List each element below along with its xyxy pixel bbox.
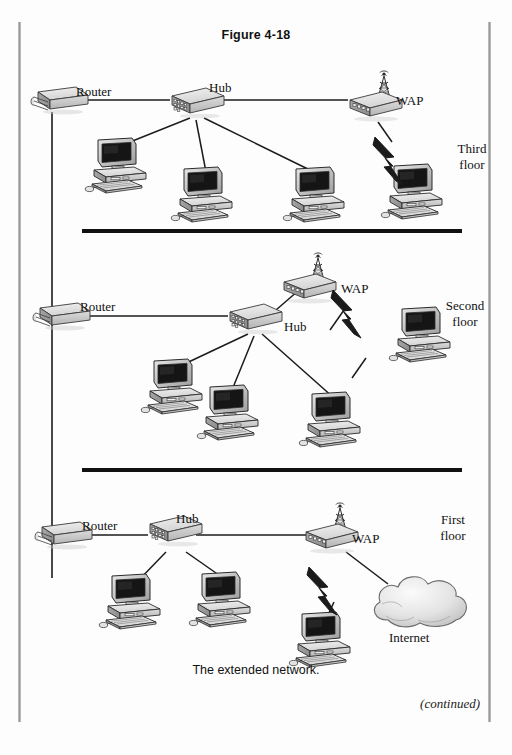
page-gutter-left <box>18 22 21 722</box>
label-router-second-floor: Router <box>80 299 115 315</box>
desktop-computer-icon-second-floor-1[interactable] <box>141 359 202 414</box>
floor-label-third: Third floor <box>437 141 507 174</box>
floor-label-second: Second floor <box>430 298 500 331</box>
floor-label-second-line2: floor <box>452 314 477 329</box>
desktop-computer-icon-first-floor-wireless[interactable] <box>289 612 350 667</box>
lightning-bolt-icon-first-floor <box>307 567 337 615</box>
hub-icon-second-floor[interactable] <box>230 304 282 334</box>
figure-title: Figure 4-18 <box>0 28 512 42</box>
lightning-bolt-icon-second-floor <box>331 290 361 338</box>
label-wap-first-floor: WAP <box>352 531 379 547</box>
internet-cloud-icon[interactable] <box>374 577 466 627</box>
floor-label-second-line1: Second <box>446 298 484 313</box>
network-diagram-art <box>0 0 512 755</box>
floor-separator-third-second <box>82 229 462 233</box>
label-router-third-floor: Router <box>76 84 111 100</box>
label-wap-second-floor: WAP <box>341 281 368 297</box>
desktop-computer-icon-first-floor-2[interactable] <box>189 572 250 627</box>
desktop-computer-icon-third-floor-wireless[interactable] <box>381 164 442 219</box>
desktop-computer-icon-second-floor-2[interactable] <box>197 385 258 440</box>
floor-label-first-line1: First <box>441 512 465 527</box>
floor-label-third-line1: Third <box>458 141 487 156</box>
label-hub-second-floor: Hub <box>284 319 306 335</box>
figure-page: Figure 4-18 <box>0 0 512 755</box>
floor-label-third-line2: floor <box>459 157 484 172</box>
floor-label-first-line2: floor <box>440 528 465 543</box>
continued-note: (continued) <box>420 696 480 712</box>
floor-separator-second-first <box>82 468 462 472</box>
figure-caption: The extended network. <box>0 663 512 677</box>
wireless-access-point-icon-third-floor[interactable] <box>350 71 402 121</box>
label-internet: Internet <box>389 630 429 646</box>
label-wap-third-floor: WAP <box>396 93 423 109</box>
wireless-access-point-icon-first-floor[interactable] <box>306 503 358 553</box>
desktop-computer-icon-second-floor-3[interactable] <box>299 392 360 447</box>
page-gutter-right <box>488 22 491 722</box>
desktop-computer-icon-third-floor-3[interactable] <box>283 167 344 222</box>
desktop-computer-icon-third-floor-1[interactable] <box>85 138 146 193</box>
floor-label-first: First floor <box>418 512 488 545</box>
wireless-access-point-icon-second-floor[interactable] <box>284 253 336 303</box>
label-hub-first-floor: Hub <box>176 511 198 527</box>
desktop-computer-icon-third-floor-2[interactable] <box>171 167 232 222</box>
second-floor-group <box>33 253 450 447</box>
label-router-first-floor: Router <box>82 518 117 534</box>
label-hub-third-floor: Hub <box>209 80 231 96</box>
desktop-computer-icon-first-floor-1[interactable] <box>99 574 160 629</box>
